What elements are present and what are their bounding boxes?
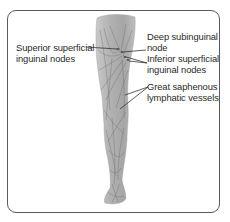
label-line: node bbox=[147, 42, 218, 53]
inferior-node-dot-2 bbox=[127, 59, 130, 61]
label-line: inguinal nodes bbox=[147, 64, 219, 75]
label-line: Superior superficial bbox=[16, 42, 94, 53]
inferior-node-dot-1 bbox=[124, 56, 127, 58]
label-line: inguinal nodes bbox=[16, 53, 94, 64]
leg-silhouette bbox=[92, 12, 138, 204]
label-deep-subinguinal-node: Deep subinguinal node bbox=[147, 31, 218, 53]
label-great-saphenous-lymphatic-vessels: Great saphenous lymphatic vessels bbox=[147, 81, 219, 103]
label-line: Deep subinguinal bbox=[147, 31, 218, 42]
label-line: lymphatic vessels bbox=[147, 92, 219, 103]
leader-saphenous-1 bbox=[125, 87, 148, 95]
label-inferior-superficial-inguinal-nodes: Inferior superficial inguinal nodes bbox=[147, 53, 219, 75]
label-superior-superficial-inguinal-nodes: Superior superficial inguinal nodes bbox=[16, 42, 94, 64]
label-line: Great saphenous bbox=[147, 81, 219, 92]
label-line: Inferior superficial bbox=[147, 53, 219, 64]
